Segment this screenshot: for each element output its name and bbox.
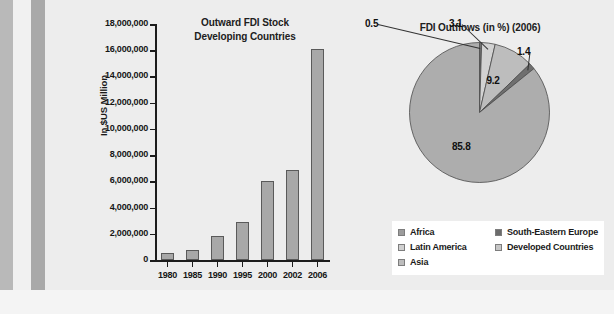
x-axis-tick-mark [317,262,319,267]
legend-label: South-Eastern Europe [507,227,598,237]
bar-chart: Outward FDI Stock Developing Countries I… [45,0,345,290]
x-axis-tick-label: 2002 [279,270,307,280]
x-axis-tick-mark [242,262,244,267]
bar [161,253,174,260]
bar [236,222,249,260]
x-axis-tick-label: 1980 [154,270,182,280]
y-axis-tick-mark [150,24,156,26]
x-axis-tick-label: 1995 [229,270,257,280]
left-margin-rule-inner [31,0,45,290]
legend-entry: Asia [398,256,495,268]
pie-slice-value-label: 9.2 [486,75,499,86]
y-axis-tick-label: 16,000,000 [105,44,148,54]
bar-chart-plot-area: 18,000,00016,000,00014,000,00012,000,000… [155,24,330,262]
legend-swatch [398,229,405,236]
legend-entry: Developed Countries [495,241,598,253]
y-axis-tick-mark [150,155,156,157]
legend-label: Latin America [410,242,467,252]
bar [261,181,274,260]
y-axis-tick-mark [150,129,156,131]
y-axis-tick-label: 10,000,000 [105,123,148,133]
pie-chart-legend: AfricaLatin AmericaAsia South-Eastern Eu… [392,221,604,275]
y-axis-tick-label: 8,000,000 [110,149,148,159]
bar [186,250,199,260]
y-axis-tick-label: 18,000,000 [105,18,148,28]
legend-label: Asia [410,257,428,267]
y-axis-tick-mark [150,260,156,262]
pie-slice-value-label: 85.8 [452,141,471,152]
left-margin-rule-outer [0,0,13,296]
x-axis-tick-label: 2006 [304,270,332,280]
pie-slice-value-label: 1.4 [517,46,530,57]
pie-svg [407,40,552,185]
x-axis-tick-mark [267,262,269,267]
page-bottom-margin [0,290,614,314]
x-axis-tick-label: 1985 [179,270,207,280]
y-axis-tick-label: 14,000,000 [105,70,148,80]
pie-chart-graphic [407,40,552,189]
legend-label: Developed Countries [507,242,593,252]
y-axis-tick-mark [150,103,156,105]
legend-swatch [398,259,405,266]
y-axis-tick-mark [150,50,156,52]
x-axis-tick-mark [217,262,219,267]
y-axis-tick-label: 0 [143,254,148,264]
legend-swatch [495,244,502,251]
legend-label: Africa [410,227,434,237]
x-axis-tick-mark [292,262,294,267]
y-axis-tick-mark [150,76,156,78]
y-axis-line [155,24,157,262]
legend-column-right: South-Eastern EuropeDeveloped Countries [495,226,598,271]
pie-slice-value-label: 3.1 [449,18,462,29]
y-axis-tick-mark [150,181,156,183]
y-axis-tick-mark [150,234,156,236]
x-axis-tick-label: 1990 [204,270,232,280]
legend-swatch [495,229,502,236]
y-axis-tick-label: 4,000,000 [110,202,148,212]
x-axis-tick-mark [192,262,194,267]
bar [311,49,324,260]
bar [211,236,224,260]
bar [286,170,299,260]
legend-entry: South-Eastern Europe [495,226,598,238]
y-axis-tick-label: 2,000,000 [110,228,148,238]
figure-panel: Outward FDI Stock Developing Countries I… [45,0,614,290]
legend-swatch [398,244,405,251]
x-axis-tick-mark [167,262,169,267]
legend-column-left: AfricaLatin AmericaAsia [398,226,495,271]
legend-entry: Latin America [398,241,495,253]
y-axis-tick-mark [150,208,156,210]
legend-entry: Africa [398,226,495,238]
y-axis-tick-label: 12,000,000 [105,97,148,107]
pie-chart: FDI Outflows (in %) (2006) 0.53.19.21.48… [345,0,614,290]
pie-slice-value-label: 0.5 [365,18,378,29]
x-axis-tick-label: 2000 [254,270,282,280]
y-axis-tick-label: 6,000,000 [110,175,148,185]
